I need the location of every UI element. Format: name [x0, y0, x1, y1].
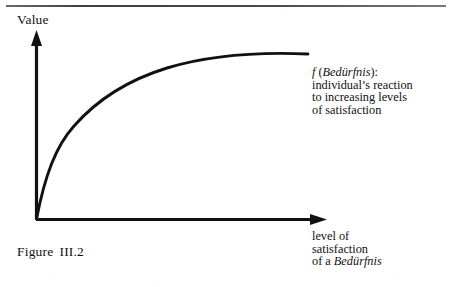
- x-axis-annotation-line-3: of a Bedürfnis: [312, 255, 382, 268]
- function-annotation-line-3: to increasing levels: [312, 91, 413, 104]
- function-annotation: f (Bedürfnis): individual’s reaction to …: [312, 66, 413, 116]
- x-axis-arrowhead: [310, 214, 327, 225]
- function-annotation-line-1: f (Bedürfnis):: [312, 66, 413, 79]
- response-curve: [37, 53, 309, 219]
- function-annotation-line-4: of satisfaction: [312, 104, 413, 117]
- x-axis-term-bedurfnis: Bedürfnis: [334, 254, 382, 268]
- function-term-bedurfnis: Bedürfnis: [323, 65, 371, 79]
- figure-caption-prefix: Figure: [17, 244, 53, 259]
- x-axis-annotation: level of satisfaction of a Bedürfnis: [312, 230, 382, 268]
- function-close-paren: ):: [370, 65, 378, 79]
- x-axis-annotation-line-1: level of: [312, 230, 382, 243]
- figure-page: Value f (Bedürfnis): individual’s reacti…: [0, 0, 450, 287]
- function-open-paren: (: [315, 65, 322, 79]
- figure-caption: FigureIII.2: [17, 245, 84, 259]
- y-axis-arrowhead: [31, 30, 42, 46]
- y-axis-label: Value: [17, 13, 49, 27]
- x-axis-annotation-prefix: of a: [312, 254, 334, 268]
- figure-caption-number: III.2: [59, 244, 84, 259]
